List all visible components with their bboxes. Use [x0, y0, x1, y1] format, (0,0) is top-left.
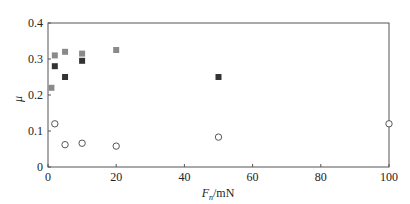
y-tick-label: 0.2 — [28, 88, 43, 102]
square-marker — [48, 85, 54, 91]
square-marker — [216, 74, 222, 80]
plot-frame — [48, 23, 389, 167]
x-tick-label: 40 — [178, 170, 190, 184]
x-tick-label: 100 — [380, 170, 398, 184]
scatter-chart: 02040608010000.10.20.30.4 μ Fn/mN — [0, 0, 410, 204]
x-tick-label: 20 — [110, 170, 122, 184]
y-tick-label: 0 — [37, 160, 43, 174]
square-marker — [113, 47, 119, 53]
square-marker — [62, 74, 68, 80]
y-tick-label: 0.4 — [28, 16, 43, 30]
y-tick-label: 0.1 — [28, 124, 43, 138]
series-open-circle — [52, 121, 393, 150]
x-axis-label: Fn/mN — [201, 186, 235, 202]
circle-marker — [113, 143, 119, 149]
square-marker — [52, 63, 58, 69]
y-axis-label: μ — [11, 96, 25, 103]
circle-marker — [79, 140, 85, 146]
x-tick-label: 60 — [247, 170, 259, 184]
circle-marker — [62, 141, 68, 147]
x-tick-label: 80 — [315, 170, 327, 184]
series-light-square — [48, 47, 119, 91]
data-points — [48, 47, 392, 149]
circle-marker — [386, 121, 392, 127]
square-marker — [79, 58, 85, 64]
square-marker — [52, 52, 58, 58]
circle-marker — [215, 134, 221, 140]
x-tick-label: 0 — [45, 170, 51, 184]
circle-marker — [52, 121, 58, 127]
plot-border — [48, 23, 389, 167]
series-dark-square — [52, 58, 222, 80]
square-marker — [62, 49, 68, 55]
y-tick-label: 0.3 — [28, 52, 43, 66]
axis-ticks: 02040608010000.10.20.30.4 — [28, 16, 398, 184]
square-marker — [79, 51, 85, 57]
